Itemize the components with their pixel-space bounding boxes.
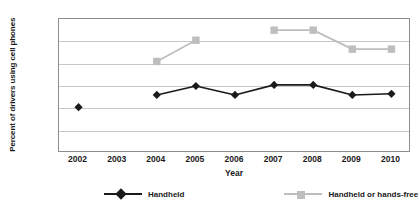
x-axis-tick-label: 2002	[68, 154, 87, 164]
series-line-segment	[235, 85, 274, 95]
x-axis-tick-label: 2004	[146, 154, 165, 164]
data-point-square	[388, 45, 395, 52]
x-axis-tick-label: 2003	[107, 154, 126, 164]
legend-label-handheld-or-hands-free: Handheld or hands-free	[328, 190, 418, 199]
x-axis-tick-label: 2007	[264, 154, 283, 164]
x-axis-tick-label: 2010	[381, 154, 400, 164]
data-point-square	[192, 37, 199, 44]
data-point-square	[349, 45, 356, 52]
data-point-diamond	[270, 81, 278, 89]
x-axis-tick-label: 2006	[225, 154, 244, 164]
series-line-segment	[157, 86, 196, 95]
legend-item-handheld-or-hands-free: Handheld or hands-free	[284, 186, 418, 202]
chart-legend: Handheld Handheld or hands-free	[58, 186, 410, 202]
series-line-segment	[313, 85, 352, 95]
data-point-diamond	[153, 91, 161, 99]
series-line-segment	[313, 30, 352, 49]
series-line-segment	[157, 40, 196, 61]
legend-item-handheld: Handheld	[104, 186, 184, 202]
data-point-square	[153, 58, 160, 65]
square-marker-icon	[297, 191, 305, 199]
diamond-marker-icon	[115, 188, 126, 199]
legend-swatch-handheld	[104, 188, 142, 200]
data-point-diamond	[348, 91, 356, 99]
x-axis-tick-label: 2005	[185, 154, 204, 164]
data-point-diamond	[74, 103, 82, 111]
series-layer	[59, 19, 411, 153]
y-axis-title: Percent of drivers using cell phones	[0, 18, 26, 152]
x-axis-tick-label: 2009	[342, 154, 361, 164]
data-point-diamond	[192, 82, 200, 90]
data-point-diamond	[231, 91, 239, 99]
series-line-segment	[196, 86, 235, 95]
data-point-diamond	[309, 81, 317, 89]
plot-area	[58, 18, 410, 152]
data-point-square	[310, 26, 317, 33]
y-axis-title-text: Percent of drivers using cell phones	[8, 18, 18, 152]
x-axis-tick-label: 2008	[303, 154, 322, 164]
legend-label-handheld: Handheld	[148, 190, 184, 199]
x-axis-title: Year	[58, 168, 410, 178]
legend-swatch-handheld-or-hands-free	[284, 188, 322, 200]
data-point-square	[270, 26, 277, 33]
series-line-segment	[352, 94, 391, 95]
data-point-diamond	[387, 90, 395, 98]
